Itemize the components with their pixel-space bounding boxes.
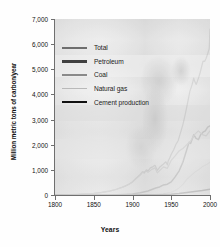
legend-swatch (62, 47, 87, 49)
y-tick (51, 94, 55, 95)
y-tick-label: 3,000 (32, 116, 48, 123)
x-tick-label: 1800 (48, 201, 62, 208)
x-axis-title: Years (0, 226, 220, 233)
x-tick-label: 1850 (87, 201, 101, 208)
y-tick-label: 0 (44, 192, 48, 199)
y-tick-label: 5,000 (32, 66, 48, 73)
x-tick-label: 1950 (164, 201, 178, 208)
legend-label: Total (94, 44, 108, 51)
y-axis-line (54, 19, 55, 196)
y-tick-label: 2,000 (32, 141, 48, 148)
figure: Million metric tons of carbon/year (0, 0, 220, 247)
x-tick-label: 1900 (125, 201, 139, 208)
y-tick-label: 7,000 (32, 16, 48, 23)
y-tick (51, 44, 55, 45)
x-tick (171, 196, 172, 200)
legend-label: Petroleum (94, 58, 124, 65)
legend-swatch (62, 101, 87, 103)
y-tick (51, 170, 55, 171)
y-tick-label: 1,000 (32, 166, 48, 173)
x-tick (133, 196, 134, 200)
y-tick (51, 19, 55, 20)
legend-label: Natural gas (94, 85, 127, 92)
x-axis-ticks: 18001850190019502000 (55, 196, 210, 214)
legend-label: Cement production (94, 99, 149, 106)
x-tick (55, 196, 56, 200)
y-tick-label: 6,000 (32, 41, 48, 48)
legend-swatch (62, 60, 87, 62)
legend-label: Coal (94, 71, 107, 78)
legend-item: Total (62, 41, 182, 55)
legend-item: Natural gas (62, 82, 182, 96)
x-tick (210, 196, 211, 200)
legend: TotalPetroleumCoalNatural gasCement prod… (62, 41, 182, 109)
x-tick (94, 196, 95, 200)
x-tick-label: 2000 (203, 201, 217, 208)
legend-item: Petroleum (62, 55, 182, 69)
legend-swatch (62, 88, 87, 90)
y-axis-ticks: 01,0002,0003,0004,0005,0006,0007,000 (0, 19, 54, 195)
y-tick (51, 195, 55, 196)
legend-swatch (62, 74, 87, 76)
y-tick (51, 145, 55, 146)
y-tick-label: 4,000 (32, 91, 48, 98)
legend-item: Coal (62, 68, 182, 82)
legend-item: Cement production (62, 95, 182, 109)
y-tick (51, 69, 55, 70)
y-tick (51, 120, 55, 121)
